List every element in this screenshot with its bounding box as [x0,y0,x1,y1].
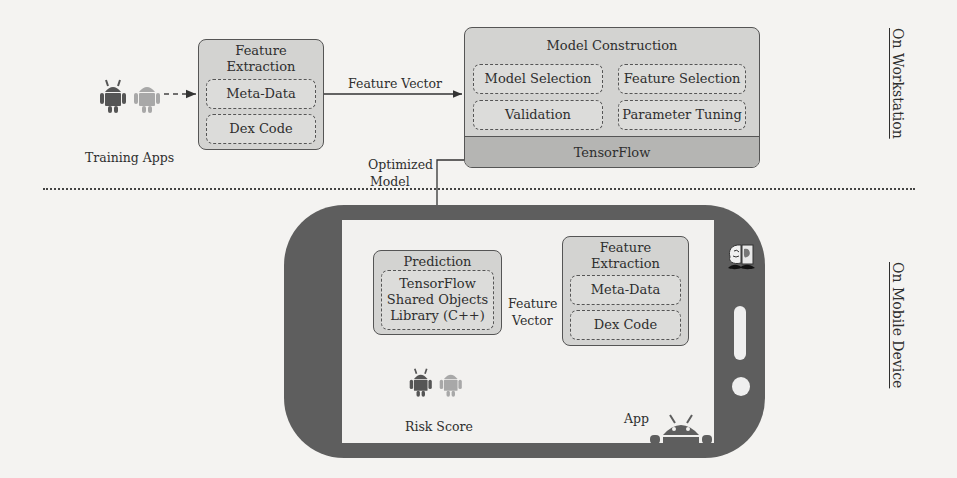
brain-mustache-icon [725,243,759,273]
mobile-feature-extraction: Feature Extraction Meta-Data Dex Code [562,236,689,346]
mc-title: Model Construction [465,38,759,54]
risk-score-icons [408,367,472,399]
optimized-model-label-2: Model [370,174,410,189]
training-apps-icons [98,78,164,114]
workstation-feature-extraction: Feature Extraction Meta-Data Dex Code [198,39,324,150]
mobile-feature-vector-label-1: Feature [508,296,557,311]
fe-title-line1: Feature [199,43,323,59]
fe-title-line2: Extraction [199,59,323,75]
mfe-title-line2: Extraction [563,256,688,272]
mfe-meta-data: Meta-Data [570,275,681,305]
mc-model-selection: Model Selection [473,64,603,94]
android-malware-icon [100,80,126,113]
mfe-title-line1: Feature [563,240,688,256]
prediction-library: TensorFlow Shared Objects Library (C++) [381,270,494,330]
fe-dex-code: Dex Code [206,114,316,144]
android-benign-icon [440,375,462,397]
optimized-model-label-1: Optimized [368,157,433,172]
training-apps-label: Training Apps [85,150,174,165]
mc-parameter-tuning: Parameter Tuning [618,100,746,130]
prediction-line-1: TensorFlow [399,276,476,292]
mobile-feature-vector-label-2: Vector [512,313,553,328]
risk-score-label: Risk Score [405,419,473,434]
prediction-title: Prediction [374,254,501,270]
mc-validation: Validation [473,100,603,130]
android-malware-icon [410,369,432,397]
prediction-line-2: Shared Objects [387,292,488,308]
phone-speaker-slot [734,306,746,360]
tensorflow-bar: TensorFlow [465,136,759,167]
mc-feature-selection: Feature Selection [618,64,746,94]
fe-meta-data: Meta-Data [206,79,316,109]
prediction-box: Prediction TensorFlow Shared Objects Lib… [373,250,502,335]
feature-vector-edge-label: Feature Vector [348,76,442,91]
mfe-dex-code: Dex Code [570,310,681,340]
phone-home-button [732,377,750,396]
prediction-line-3: Library (C++) [390,308,485,324]
android-head-icon [646,413,716,444]
android-benign-icon [134,87,160,113]
model-construction: Model Construction Model Selection Featu… [464,27,760,168]
